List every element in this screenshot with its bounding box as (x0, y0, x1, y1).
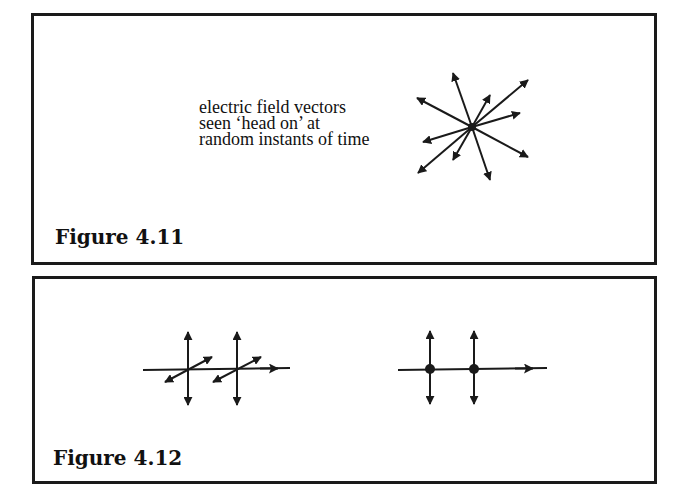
out-of-page-dot (469, 364, 479, 374)
origin-dot (468, 123, 476, 131)
radial-field-vectors (417, 73, 528, 180)
figure-drawings (0, 0, 689, 499)
out-of-page-dot (425, 364, 435, 374)
polarization-diagrams (143, 331, 547, 405)
field-vector-arrow (418, 127, 472, 173)
field-vector-arrow (472, 80, 528, 127)
